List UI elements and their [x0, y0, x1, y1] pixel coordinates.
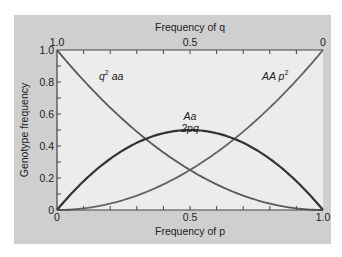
x-tick-label: 0: [54, 211, 60, 223]
y-tick-label: 0.8: [39, 76, 54, 88]
curve-label-AA: AA p2: [261, 69, 288, 82]
x2-tick-label: 0: [320, 36, 326, 48]
y-tick-label: 0.2: [39, 172, 54, 184]
y-tick-label: 1.0: [39, 44, 54, 56]
x2-tick-label: 0.5: [183, 36, 198, 48]
x-tick-label: 0.5: [183, 211, 198, 223]
genotype-frequency-chart: 00.51.01.00.5000.20.40.60.81.0 Frequency…: [0, 0, 342, 257]
y-tick-label: 0: [48, 204, 54, 216]
top-axis-title: Frequency of q: [155, 21, 225, 33]
curve-label-Aa: Aa: [183, 110, 197, 122]
y-tick-label: 0.4: [39, 140, 54, 152]
y-axis-title: Genotype frequency: [18, 82, 30, 177]
curve-label-aa: q2 aa: [99, 69, 124, 82]
y-tick-label: 0.6: [39, 108, 54, 120]
x-tick-label: 1.0: [316, 211, 331, 223]
curve-label-2pq: 2pq: [180, 122, 199, 134]
bottom-axis-title: Frequency of p: [155, 225, 225, 237]
